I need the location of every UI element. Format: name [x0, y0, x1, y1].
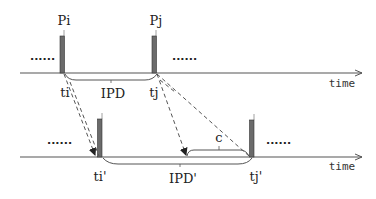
ipd-prime-label: IPD'	[169, 172, 197, 185]
ipd-brace	[65, 74, 157, 80]
ipd-diagram: Pi Pj ...... ...... ti IPD tj time .....…	[0, 0, 376, 199]
bottom-ellipsis-left: ......	[47, 135, 72, 146]
delay-c-brace	[187, 150, 249, 156]
packet-pi-label: Pi	[58, 14, 71, 27]
ipd-label: IPD	[101, 87, 125, 100]
dashed-line-tj-to-tj-prime	[157, 74, 249, 156]
delay-c-label: c	[215, 131, 222, 144]
packet-pi-bar	[60, 30, 65, 73]
top-time-axis-label: time	[329, 78, 356, 89]
top-ellipsis-left: ......	[30, 51, 55, 62]
packet-pj-label: Pj	[150, 14, 163, 27]
dashed-line-ti-to-ti-prime	[70, 82, 99, 156]
bottom-time-axis-label: time	[329, 161, 356, 172]
time-tj-prime-label: tj'	[250, 170, 263, 183]
diagram-canvas	[0, 0, 376, 199]
dashed-line-tj-extra	[160, 80, 175, 92]
packet-ti-prime-bar	[98, 113, 103, 157]
time-ti-prime-label: ti'	[94, 170, 107, 183]
packet-pj-bar	[152, 30, 157, 73]
packet-tj-prime-bar	[250, 114, 255, 157]
time-ti-label: ti	[60, 86, 69, 99]
ipd-prime-brace	[103, 158, 252, 164]
time-tj-label: tj	[149, 86, 158, 99]
dashed-arrow-tj-to-c	[157, 74, 186, 155]
top-ellipsis-right: ......	[172, 51, 197, 62]
bottom-ellipsis-right: ......	[266, 135, 291, 146]
